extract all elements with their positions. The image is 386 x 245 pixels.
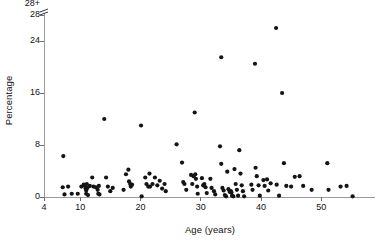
data-point bbox=[153, 175, 157, 179]
data-point bbox=[241, 189, 245, 193]
data-point bbox=[240, 183, 244, 187]
data-point bbox=[269, 181, 273, 185]
data-point bbox=[237, 148, 241, 152]
data-point bbox=[275, 183, 279, 187]
data-point bbox=[232, 167, 236, 171]
data-point bbox=[88, 184, 92, 188]
data-point bbox=[126, 168, 130, 172]
data-point bbox=[190, 182, 194, 186]
data-point bbox=[266, 188, 270, 192]
data-point bbox=[236, 194, 240, 198]
data-point bbox=[297, 174, 301, 178]
plot-area bbox=[0, 0, 386, 245]
data-point bbox=[258, 194, 262, 198]
data-point bbox=[175, 142, 179, 146]
data-point bbox=[205, 191, 209, 195]
data-point bbox=[96, 188, 100, 192]
data-point bbox=[182, 182, 186, 186]
data-point bbox=[195, 185, 199, 189]
data-point bbox=[218, 144, 222, 148]
data-point bbox=[140, 194, 144, 198]
data-point bbox=[194, 177, 198, 181]
data-point bbox=[325, 161, 329, 165]
data-point bbox=[326, 188, 330, 192]
data-point bbox=[124, 172, 128, 176]
data-point bbox=[143, 175, 147, 179]
data-point bbox=[155, 183, 159, 187]
data-point bbox=[160, 186, 164, 190]
data-point bbox=[70, 192, 74, 196]
data-point bbox=[97, 192, 101, 196]
data-point bbox=[265, 177, 269, 181]
data-point bbox=[253, 62, 257, 66]
data-point bbox=[147, 172, 151, 176]
data-point bbox=[193, 172, 197, 176]
data-point bbox=[225, 170, 229, 174]
data-point bbox=[86, 193, 90, 197]
data-point bbox=[61, 154, 65, 158]
data-point bbox=[256, 183, 260, 187]
data-point bbox=[102, 117, 106, 121]
data-point bbox=[104, 175, 108, 179]
data-point bbox=[208, 177, 212, 181]
data-point bbox=[66, 185, 70, 189]
data-points bbox=[61, 26, 355, 199]
data-point bbox=[274, 26, 278, 30]
data-point bbox=[139, 123, 143, 127]
data-point bbox=[280, 91, 284, 95]
data-point bbox=[301, 184, 305, 188]
data-point bbox=[90, 175, 94, 179]
data-point bbox=[263, 184, 267, 188]
scatter-plot-figure: Percentage 0816242828+ 41020304050 Age (… bbox=[0, 0, 386, 245]
data-point bbox=[338, 185, 342, 189]
data-point bbox=[162, 182, 166, 186]
data-point bbox=[130, 183, 134, 187]
data-point bbox=[219, 55, 223, 59]
data-point bbox=[351, 194, 355, 198]
data-point bbox=[200, 176, 204, 180]
data-point bbox=[310, 188, 314, 192]
data-point bbox=[250, 188, 254, 192]
data-point bbox=[284, 184, 288, 188]
data-point bbox=[184, 188, 188, 192]
data-point bbox=[158, 179, 162, 183]
data-point bbox=[231, 194, 235, 198]
data-point bbox=[106, 185, 110, 189]
data-point bbox=[293, 175, 297, 179]
data-point bbox=[203, 185, 207, 189]
data-point bbox=[61, 185, 65, 189]
data-point bbox=[76, 192, 80, 196]
data-point bbox=[282, 161, 286, 165]
data-point bbox=[150, 182, 154, 186]
data-point bbox=[238, 172, 242, 176]
axes bbox=[40, 13, 375, 201]
data-point bbox=[193, 110, 197, 114]
data-point bbox=[121, 188, 125, 192]
data-point bbox=[261, 178, 265, 182]
data-point bbox=[253, 166, 257, 170]
data-point bbox=[97, 184, 101, 188]
data-point bbox=[235, 188, 239, 192]
data-point bbox=[255, 174, 259, 178]
data-point bbox=[277, 194, 281, 198]
data-point bbox=[62, 192, 66, 196]
data-point bbox=[180, 160, 184, 164]
data-point bbox=[213, 192, 217, 196]
data-point bbox=[242, 194, 246, 198]
data-point bbox=[289, 185, 293, 189]
data-point bbox=[234, 182, 238, 186]
data-point bbox=[111, 186, 115, 190]
data-point bbox=[224, 194, 228, 198]
data-point bbox=[344, 184, 348, 188]
data-point bbox=[219, 162, 223, 166]
data-point bbox=[196, 192, 200, 196]
data-point bbox=[222, 188, 226, 192]
data-point bbox=[164, 189, 168, 193]
data-point bbox=[249, 183, 253, 187]
